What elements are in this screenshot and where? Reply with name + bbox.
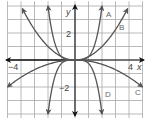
curve-b bbox=[75, 9, 128, 60]
tick-label-neg2: −2 bbox=[59, 83, 69, 93]
tick-label-pos4: 4 bbox=[128, 62, 133, 72]
curve-label-b: B bbox=[119, 23, 124, 32]
tick-label-neg4: −4 bbox=[8, 62, 18, 72]
tick-label-pos2: 2 bbox=[66, 29, 71, 39]
curve-label-c: C bbox=[135, 88, 141, 97]
curve-label-d: D bbox=[105, 90, 111, 99]
function-graph: y x −4 4 2 −2 A B C D bbox=[0, 0, 151, 118]
x-axis-label: x bbox=[136, 62, 142, 72]
y-axis-label: y bbox=[65, 7, 71, 17]
curve-label-a: A bbox=[106, 10, 112, 19]
